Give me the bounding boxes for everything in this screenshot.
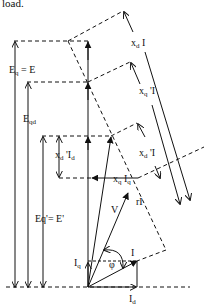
phasor-diagram: load. — [0, 0, 214, 308]
label-Iq: Iq — [74, 257, 81, 270]
xqprimeI-tip-dashed — [88, 62, 130, 82]
label-I: I — [131, 247, 134, 258]
xdI-lower-arrow — [145, 52, 190, 200]
label-xd-prime-Id: xd 'Id — [55, 149, 75, 162]
label-Id: Id — [129, 293, 136, 306]
xqprimeI-upper-arrow — [131, 63, 140, 84]
label-eqd: Eqd — [23, 113, 37, 126]
xdprimeI-upper-arrow — [138, 124, 145, 137]
caption-fragment: load. — [2, 0, 24, 9]
eprime-phasor — [88, 137, 111, 287]
label-phi: φ — [109, 259, 115, 270]
label-rI: rI — [136, 196, 143, 207]
label-eq-prime: Eq'= E' — [35, 213, 64, 224]
label-xd-prime-I: xd 'I — [139, 147, 155, 160]
label-xq-Iq: xq Iq — [113, 173, 131, 186]
xdI-tip-dashed — [68, 11, 123, 41]
v-phasor — [88, 193, 128, 287]
label-eq-e: Eq = E — [9, 64, 35, 77]
label-xd-I: xd I — [131, 37, 145, 50]
label-xq-prime-I: xq 'I — [139, 85, 155, 98]
label-V: V — [111, 204, 119, 215]
xdI-upper-arrow — [124, 12, 133, 32]
xdprimeI-tip-dashed — [111, 123, 137, 136]
I-extension-dashed — [137, 250, 166, 261]
